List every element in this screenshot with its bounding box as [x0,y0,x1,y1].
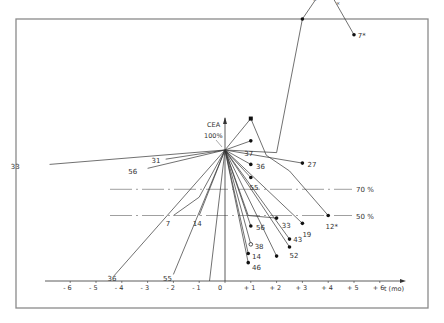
series-label: 37 [244,150,253,158]
series-label: 56 [256,224,265,232]
x-tick-label: + 4 [321,284,333,292]
x-tick-label: + 1 [244,284,256,292]
series-label: 36 [108,275,117,283]
series-label: 56 [128,168,137,176]
series-label: 33 [11,163,20,171]
series-label: 19 [302,231,311,239]
x-tick-label: + 5 [347,284,359,292]
small-x-marker: × [336,0,340,6]
filled-marker [246,252,250,256]
x-tick-label: 0 [218,284,222,292]
threshold-label: 70 % [356,186,374,194]
series-label: 14 [252,253,261,261]
series-label: 43 [293,236,302,244]
filled-marker [301,161,305,165]
series-label: 36 [256,163,265,171]
x-tick-label: - 5 [89,284,98,292]
x-tick-label: - 1 [192,284,201,292]
series-label: 27 [308,161,317,169]
series-label: 7 [166,220,170,228]
open-marker [249,243,253,247]
filled-marker [275,254,279,258]
filled-marker [249,176,253,180]
cea-chart: 70 %50 % ×× - 6- 5- 4- 3- 2- 10+ 1+ 2+ 3… [0,0,444,323]
series-label: 12* [326,223,339,231]
series-label: 52 [290,252,299,260]
filled-marker [249,224,253,228]
x-tick-label: + 6 [373,284,385,292]
series-label: 38 [255,243,264,251]
filled-marker [301,17,305,21]
x-tick-label: - 2 [166,284,175,292]
filled-marker [288,245,292,249]
series-label: 31 [151,157,160,165]
x-tick-label: - 6 [63,284,72,292]
small-x-marker: × [313,0,317,2]
series-label: 55 [250,184,259,192]
filled-marker [288,237,292,241]
filled-marker [249,163,253,167]
x-tick-label: + 2 [270,284,282,292]
x-axis-label: t (mo) [384,285,404,293]
filled-marker [246,261,250,265]
x-tick-label: - 4 [115,284,124,292]
x-tick-label: + 3 [295,284,307,292]
x-tick-label: - 3 [141,284,150,292]
filled-marker [352,33,356,37]
series-label: 55 [163,275,172,283]
reference-label: 100% [204,132,223,140]
filled-marker [301,222,305,226]
threshold-label: 50 % [356,213,374,221]
square-marker [249,117,253,121]
series-label: 7* [358,32,366,40]
series-label: 46 [252,264,261,272]
series-label: 33 [282,222,291,230]
filled-marker [326,214,330,218]
filled-marker [249,139,253,143]
series-label: 14 [193,220,202,228]
y-axis-label: CEA [207,121,221,129]
chart-frame [16,19,428,308]
